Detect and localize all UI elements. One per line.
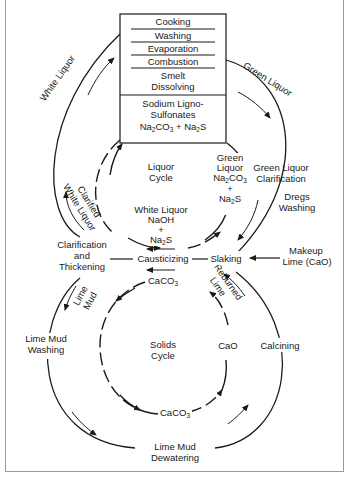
process-box: Cooking Washing Evaporation Combustion S… (120, 14, 226, 143)
label-makeup-lime: Makeup Lime (CaO) (282, 245, 331, 267)
label-caco3-top: CaCO3 (146, 274, 182, 287)
label-calcining: Calcining (256, 338, 304, 352)
label-green-liquor: Green Liquor (241, 60, 294, 99)
label-cao: CaO (216, 338, 240, 352)
svg-text:Cycle: Cycle (151, 350, 175, 361)
label-green-liquor-composition: Green Liquor Na2CO3 + Na2S (212, 152, 248, 215)
label-solids-cycle: Solids Cycle (150, 339, 176, 361)
svg-text:Dregs: Dregs (284, 191, 310, 202)
product-line1: Sodium Ligno- (142, 98, 203, 109)
svg-text:Causticizing: Causticizing (137, 253, 188, 264)
label-causticizing: Causticizing (137, 253, 188, 264)
svg-text:Thickening: Thickening (59, 261, 105, 272)
svg-text:Washing: Washing (279, 202, 316, 213)
svg-text:Solids: Solids (150, 339, 176, 350)
svg-text:Slaking: Slaking (210, 253, 241, 264)
svg-text:Green Liquor: Green Liquor (253, 162, 308, 173)
label-dregs-washing: Dregs Washing (279, 191, 316, 213)
step-cooking: Cooking (156, 16, 191, 27)
label-green-liquor-clarification: Green Liquor Clarification (253, 162, 308, 184)
svg-text:Calcining: Calcining (260, 340, 299, 351)
svg-text:and: and (74, 250, 90, 261)
svg-text:Washing: Washing (28, 344, 65, 355)
svg-text:Cycle: Cycle (149, 172, 173, 183)
step-evaporation: Evaporation (148, 43, 199, 54)
label-white-liquor: White Liquor (37, 53, 77, 103)
process-cycle-diagram: Cooking Washing Evaporation Combustion S… (0, 0, 350, 481)
label-caco3-bottom: CaCO3 (158, 405, 192, 419)
label-clarification-thickening: Clarification and Thickening (56, 239, 110, 273)
svg-text:Clarification: Clarification (57, 239, 107, 250)
svg-text:CaCO3: CaCO3 (160, 407, 190, 419)
svg-text:CaO: CaO (218, 340, 238, 351)
svg-text:Dewatering: Dewatering (151, 452, 199, 463)
svg-text:CaCO3: CaCO3 (148, 275, 178, 287)
svg-text:Lime Mud: Lime Mud (154, 441, 196, 452)
label-lime-mud-dewatering: Lime Mud Dewatering (137, 440, 213, 466)
svg-text:Na2S: Na2S (150, 234, 172, 246)
step-washing: Washing (155, 30, 192, 41)
label-liquor-cycle: Liquor Cycle (148, 161, 174, 183)
step-dissolving: Dissolving (151, 81, 194, 92)
label-slaking: Slaking (208, 251, 242, 265)
svg-text:Makeup: Makeup (289, 245, 323, 256)
label-lime-mud-washing: Lime Mud Washing (20, 333, 72, 359)
label-white-liquor-composition: White Liquor NaOH + Na2S (134, 204, 187, 246)
svg-text:Lime Mud: Lime Mud (25, 333, 67, 344)
svg-text:Clarification: Clarification (256, 173, 306, 184)
svg-text:Lime (CaO): Lime (CaO) (282, 256, 331, 267)
label-reburned-lime: Reburned Lime (203, 262, 245, 309)
product-line2: Sulfonates (151, 109, 196, 120)
product-formula: Na2CO3 + Na2S (140, 121, 207, 133)
causticizing-connectors (110, 249, 280, 270)
svg-text:Na2S: Na2S (219, 193, 241, 205)
step-combustion: Combustion (148, 56, 199, 67)
svg-text:Liquor: Liquor (148, 161, 174, 172)
step-smelt: Smelt (161, 70, 186, 81)
